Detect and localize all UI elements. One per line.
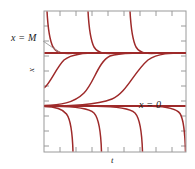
plot-canvas <box>0 0 195 169</box>
label-x-equals-M: x = M <box>11 33 37 43</box>
axis-label-x: x <box>27 68 36 72</box>
plot-frame <box>44 11 186 152</box>
frame-border <box>44 11 186 152</box>
label-x-equals-0: x = 0 <box>139 100 161 110</box>
axis-label-t: t <box>111 156 114 165</box>
logistic-solution-curves-figure: x = M x = 0 t x <box>0 0 195 169</box>
